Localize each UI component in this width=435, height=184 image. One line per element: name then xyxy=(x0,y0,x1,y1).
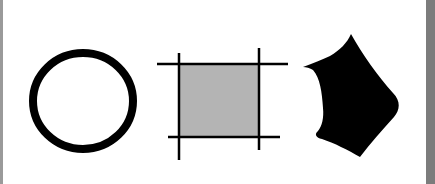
shapes-canvas xyxy=(0,0,435,184)
hollow-circle-shape xyxy=(33,53,133,149)
square-fill xyxy=(180,64,259,137)
framed-square-shape xyxy=(157,48,288,160)
irregular-blob-shape xyxy=(303,34,399,157)
